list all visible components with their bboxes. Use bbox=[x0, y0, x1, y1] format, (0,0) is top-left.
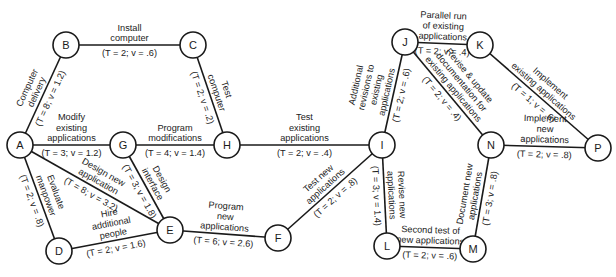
edge-label-I-L: Revise newapplications(T = 3; v = 1.4) bbox=[370, 164, 408, 226]
node-F: F bbox=[265, 225, 291, 251]
activity-label: existing bbox=[289, 123, 320, 133]
node-label: K bbox=[476, 39, 484, 51]
edge-label-E-F: Programnewapplications(T = 6; v = 2.6) bbox=[193, 199, 256, 249]
node-label: I bbox=[380, 139, 383, 151]
activity-params: (T = 4; v = 1.4) bbox=[145, 148, 205, 158]
node-label: J bbox=[402, 36, 408, 48]
edge-label-G-E: Designinterface(T = 3; v = 1.8) bbox=[121, 150, 181, 220]
node-C: C bbox=[180, 32, 206, 58]
activity-params: (T = 2; v = .6) bbox=[102, 48, 157, 58]
activity-label: computer bbox=[110, 33, 148, 43]
activity-label: applications bbox=[520, 134, 569, 145]
node-L: L bbox=[374, 233, 400, 259]
edge-F-I bbox=[278, 145, 382, 238]
node-H: H bbox=[214, 132, 240, 158]
node-label: P bbox=[594, 142, 601, 154]
activity-label: Implement bbox=[524, 113, 568, 124]
edge-label-H-I: Testexistingapplications(T = 2; v = .4) bbox=[277, 112, 332, 158]
node-N: N bbox=[478, 132, 504, 158]
node-label: A bbox=[16, 139, 24, 151]
node-J: J bbox=[392, 29, 418, 55]
activity-params: (T = 6; v = 2.6) bbox=[193, 235, 254, 249]
edge-I-L bbox=[382, 145, 387, 246]
activity-params: (T = 3; v = .8) bbox=[480, 170, 499, 226]
activity-params: (T = 2; v = .8) bbox=[517, 149, 572, 161]
node-B: B bbox=[53, 32, 79, 58]
activity-params: (T = 2; v = .6) bbox=[402, 250, 457, 262]
edge-label-A-G: Modifyexistingapplications(T = 3; v = 1.… bbox=[41, 112, 101, 158]
activity-label: new applications bbox=[396, 234, 465, 246]
node-A: A bbox=[7, 132, 33, 158]
activity-label: applications bbox=[47, 133, 96, 143]
activity-label: applications bbox=[385, 171, 397, 220]
node-label: H bbox=[223, 139, 231, 151]
node-I: I bbox=[369, 132, 395, 158]
node-M: M bbox=[460, 236, 486, 262]
node-label: E bbox=[166, 224, 173, 236]
activity-label: Test bbox=[296, 112, 313, 122]
edge-label-I-J: Additionalrevisions toexistingapplicatio… bbox=[345, 57, 412, 123]
edge-label-N-P: Implementnewapplications(T = 2; v = .8) bbox=[517, 113, 573, 161]
activity-label: Program bbox=[157, 123, 193, 133]
edge-N-P bbox=[491, 145, 598, 148]
node-G: G bbox=[110, 132, 136, 158]
node-E: E bbox=[157, 217, 183, 243]
activity-label: new bbox=[217, 211, 235, 222]
activity-label: applications bbox=[418, 31, 467, 43]
node-K: K bbox=[467, 32, 493, 58]
node-label: C bbox=[189, 39, 197, 51]
edge-label-F-I: Test newapplications(T = 2; v = .8) bbox=[295, 156, 360, 219]
node-label: L bbox=[384, 240, 390, 252]
activity-label: Program bbox=[208, 200, 244, 213]
node-D: D bbox=[46, 238, 72, 264]
activity-label: applications bbox=[280, 133, 329, 143]
node-label: D bbox=[55, 245, 63, 257]
node-label: B bbox=[62, 39, 69, 51]
node-label: F bbox=[275, 232, 282, 244]
activity-params: (T = 3; v = 1.2) bbox=[41, 148, 101, 158]
node-label: N bbox=[487, 139, 495, 151]
activity-label: Install bbox=[117, 23, 141, 33]
node-P: P bbox=[585, 135, 611, 161]
node-label: M bbox=[468, 243, 477, 255]
edge-label-B-C: Installcomputer(T = 2; v = .6) bbox=[102, 23, 157, 59]
activity-label: modifications bbox=[148, 133, 202, 143]
edge-label-A-E: Design newapplication(T = 8; v = 3.2) bbox=[62, 153, 132, 214]
edge-label-J-K: Parallel runof existingapplications(T = … bbox=[415, 9, 472, 57]
edge-label-C-H: Testcomputer(T = 2; v = .2) bbox=[189, 62, 240, 125]
activity-label: new bbox=[536, 124, 553, 134]
activity-label: applications bbox=[200, 220, 250, 234]
edge-label-A-D: Evaluatemanpower(T = 2; v = .8) bbox=[18, 164, 70, 228]
activity-label: Modify bbox=[58, 112, 85, 122]
edge-label-G-H: Programmodifications(T = 4; v = 1.4) bbox=[145, 123, 205, 159]
activity-params: (T = 3; v = 1.4) bbox=[370, 166, 383, 227]
activity-params: (T = 2; v = .4) bbox=[277, 148, 332, 158]
node-label: G bbox=[119, 139, 128, 151]
pert-network-diagram: Computerdelivery(T = 8; v = 1.2)Installc… bbox=[0, 0, 616, 277]
activity-label: existing bbox=[56, 123, 87, 133]
edge-label-L-M: Second test ofnew applications(T = 2; v … bbox=[396, 224, 466, 262]
